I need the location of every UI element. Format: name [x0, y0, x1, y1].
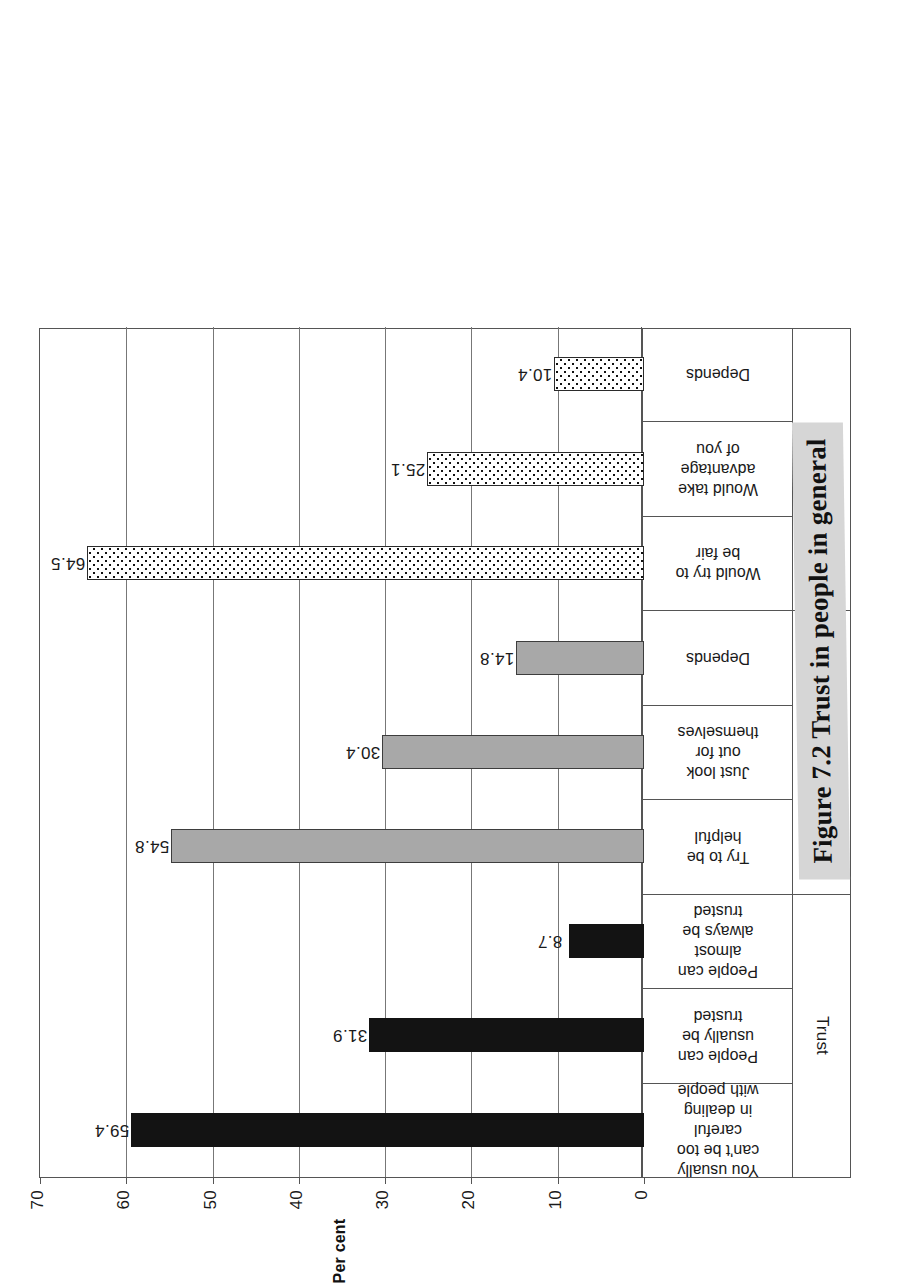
axis-tick	[212, 1177, 213, 1184]
category-label-cell: Just look out for themselves	[643, 705, 793, 799]
bar-value-label: 14.8	[480, 648, 514, 668]
category-label: Would take advantage of you	[675, 439, 760, 499]
axis-tick	[471, 1177, 472, 1184]
bar-group-item: 14.8	[40, 641, 644, 675]
axis-tick-label: 40	[286, 1190, 306, 1224]
bar: 54.8	[171, 829, 644, 863]
category-label-cell: People can usually be trusted	[643, 988, 793, 1082]
bar-group-item: 54.8	[40, 829, 644, 863]
axis-tick-label: 60	[114, 1190, 134, 1224]
category-label: People can usually be trusted	[675, 1006, 760, 1066]
bar: 25.1	[427, 452, 644, 486]
category-label-cell: You usually can't be too careful in deal…	[643, 1083, 793, 1177]
bar: 8.7	[568, 924, 643, 958]
value-axis-title: Per cent	[331, 1206, 349, 1287]
category-label: You usually can't be too careful in deal…	[675, 1080, 760, 1180]
category-label-cell: Depends	[643, 327, 793, 421]
axis-tick-label: 10	[545, 1190, 565, 1224]
axis-tick	[644, 1177, 645, 1184]
bar-value-label: 30.4	[345, 742, 379, 762]
bar-value-label: 64.5	[51, 553, 85, 573]
bar-value-label: 54.8	[135, 836, 169, 856]
axis-tick-label: 0	[632, 1190, 652, 1224]
axis-tick	[298, 1177, 299, 1184]
bar: 31.9	[368, 1018, 643, 1052]
bar-value-label: 8.7	[537, 931, 562, 951]
plot-area: 59.431.98.754.830.414.864.525.110.4	[39, 328, 643, 1178]
category-label: People can almost always be trusted	[675, 901, 760, 981]
bar-group-item: 30.4	[40, 735, 644, 769]
group-label-cell: Helpfulness	[793, 610, 851, 893]
category-label-cell: Depends	[643, 610, 793, 704]
category-label-cell: People can almost always be trusted	[643, 894, 793, 988]
axis-tick	[385, 1177, 386, 1184]
bar: 59.4	[131, 1113, 644, 1147]
bar: 64.5	[87, 546, 644, 580]
bar-chart: 59.431.98.754.830.414.864.525.110.4 0102…	[39, 18, 643, 1178]
bar-group-item: 64.5	[40, 546, 644, 580]
group-label: Helpfulness	[812, 707, 832, 798]
bar-group-item: 59.4	[40, 1113, 644, 1147]
bar: 30.4	[381, 735, 643, 769]
category-label: Try to be helpful	[675, 827, 760, 867]
category-label-cell: Would take advantage of you	[643, 421, 793, 515]
category-label: Just look out for themselves	[675, 723, 760, 783]
axis-tick-label: 70	[28, 1190, 48, 1224]
category-label-cell: Try to be helpful	[643, 799, 793, 893]
bar-group-item: 25.1	[40, 452, 644, 486]
axis-tick	[557, 1177, 558, 1184]
bar-value-label: 31.9	[332, 1025, 366, 1045]
axis-tick	[126, 1177, 127, 1184]
category-label-table: You usually can't be too careful in deal…	[643, 328, 793, 1178]
bar-group-item: 31.9	[40, 1018, 644, 1052]
group-label-table: TrustHelpfulnessFairness	[793, 328, 851, 1178]
bar-value-label: 59.4	[95, 1120, 129, 1140]
group-label: Trust	[812, 1016, 832, 1055]
bar-group-item: 8.7	[40, 924, 644, 958]
bar-value-label: 25.1	[391, 459, 425, 479]
bar: 14.8	[516, 641, 644, 675]
axis-tick	[40, 1177, 41, 1184]
bars-layer: 59.431.98.754.830.414.864.525.110.4	[40, 327, 644, 1177]
axis-tick-label: 50	[200, 1190, 220, 1224]
category-label: Depends	[674, 364, 760, 384]
category-label-cell: Would try to be fair	[643, 516, 793, 610]
axis-tick-label: 30	[373, 1190, 393, 1224]
axis-tick-label: 20	[459, 1190, 479, 1224]
category-label: Would try to be fair	[675, 544, 760, 584]
bar-group-item: 10.4	[40, 357, 644, 391]
group-label-cell: Trust	[793, 894, 851, 1177]
bar-value-label: 10.4	[518, 364, 552, 384]
group-label: Fairness	[812, 435, 832, 502]
bar: 10.4	[554, 357, 644, 391]
category-label: Depends	[675, 648, 760, 668]
group-label-cell: Fairness	[793, 327, 851, 610]
